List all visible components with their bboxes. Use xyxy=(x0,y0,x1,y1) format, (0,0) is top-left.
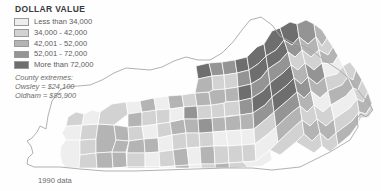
legend-swatch-class-4 xyxy=(14,51,29,59)
legend-title: DOLLAR VALUE xyxy=(15,4,146,14)
extreme-high-value: Oldham = $85,900 xyxy=(15,92,146,101)
legend-swatch-class-3 xyxy=(14,40,29,48)
legend-label-class-5: More than 72,000 xyxy=(34,61,94,69)
kentucky-choropleth-figure: DOLLAR VALUE Less than 34,000 34,000 - 4… xyxy=(0,0,381,191)
county-extremes-note: County extremes: Owsley = $24,100 Oldham… xyxy=(15,74,146,100)
legend-swatch-class-2 xyxy=(14,29,29,37)
legend-label-class-4: 52,001 - 72,000 xyxy=(34,50,87,58)
legend-row-class-4: 52,001 - 72,000 xyxy=(14,49,146,59)
legend-label-class-3: 42,001 - 52,000 xyxy=(34,40,87,48)
legend-row-class-3: 42,001 - 52,000 xyxy=(14,39,146,49)
legend-swatch-class-5 xyxy=(14,61,29,69)
legend-label-class-2: 34,000 - 42,000 xyxy=(34,29,87,37)
legend-swatch-class-1 xyxy=(14,18,29,26)
source-caption: 1990 data xyxy=(38,176,72,185)
legend-row-class-2: 34,000 - 42,000 xyxy=(14,28,146,38)
legend: DOLLAR VALUE Less than 34,000 34,000 - 4… xyxy=(14,4,146,100)
legend-label-class-1: Less than 34,000 xyxy=(34,18,92,26)
legend-row-class-1: Less than 34,000 xyxy=(14,17,146,27)
legend-row-class-5: More than 72,000 xyxy=(14,60,146,70)
